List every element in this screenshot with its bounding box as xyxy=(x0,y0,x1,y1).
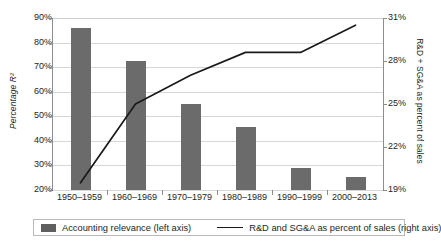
legend-bar-swatch-icon xyxy=(41,224,56,232)
legend-item-bar: Accounting relevance (left axis) xyxy=(41,223,191,233)
category-separator xyxy=(272,190,273,195)
chart-legend: Accounting relevance (left axis) R&D and… xyxy=(33,219,405,236)
category-separator xyxy=(327,190,328,195)
left-tick-label: 90% xyxy=(12,12,52,22)
left-tick-label: 60% xyxy=(12,86,52,96)
category-label: 2000–2013 xyxy=(323,192,387,202)
plot-area xyxy=(52,18,384,191)
right-tick-label: 19% xyxy=(388,184,428,194)
category-separator xyxy=(162,190,163,195)
right-tick-label: 31% xyxy=(388,12,428,22)
legend-line-swatch-icon xyxy=(217,227,243,228)
gridline xyxy=(53,190,383,191)
left-tick-label: 50% xyxy=(12,110,52,120)
left-tick-label: 70% xyxy=(12,61,52,71)
right-tick-label: 25% xyxy=(388,98,428,108)
left-tick-label: 80% xyxy=(12,37,52,47)
legend-item-line: R&D and SG&A as percent of sales (right … xyxy=(217,223,441,233)
category-separator xyxy=(217,190,218,195)
right-tick-label: 22% xyxy=(388,141,428,151)
left-tick-label: 40% xyxy=(12,135,52,145)
legend-bar-label: Accounting relevance (left axis) xyxy=(62,223,191,233)
left-tick-label: 30% xyxy=(12,159,52,169)
left-tick-label: 20% xyxy=(12,184,52,194)
right-tick-label: 28% xyxy=(388,55,428,65)
category-separator xyxy=(107,190,108,195)
line-series xyxy=(53,18,383,190)
legend-line-label: R&D and SG&A as percent of sales (right … xyxy=(249,223,441,233)
